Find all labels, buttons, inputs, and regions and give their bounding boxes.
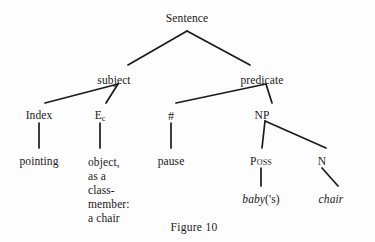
node-np-label: NP (255, 109, 270, 121)
gloss-line: member: (88, 197, 130, 211)
node-pause-label: pause (158, 155, 185, 167)
figure-container: Sentence subject predicate Index Ec # NP… (0, 0, 375, 242)
node-sentence-label: Sentence (166, 12, 208, 24)
np-to-poss (262, 121, 265, 148)
node-ec: Ec (95, 109, 106, 124)
n-to-chair (322, 168, 338, 186)
node-predicate-label: predicate (240, 74, 283, 86)
node-object-gloss: object,as aclass-member:a chair (88, 155, 130, 225)
gloss-line: object, (88, 155, 130, 169)
gloss-line: a chair (88, 211, 130, 225)
node-index: Index (26, 109, 53, 123)
node-n: N (318, 155, 326, 169)
figure-caption: Figure 10 (170, 221, 217, 233)
node-pause: pause (158, 155, 185, 169)
node-hash: # (168, 109, 174, 123)
node-baby: baby('s) (242, 193, 279, 207)
node-poss: Poss (250, 155, 272, 169)
node-pointing-label: pointing (19, 155, 58, 167)
node-baby-suffix: ('s) (265, 193, 280, 205)
node-np: NP (255, 109, 270, 123)
node-poss-label: Poss (250, 155, 272, 167)
node-ec-subscript: c (102, 114, 106, 123)
node-hash-label: # (168, 109, 174, 123)
node-predicate: predicate (240, 74, 283, 88)
node-baby-italic: baby (242, 193, 265, 205)
node-index-label: Index (26, 109, 53, 121)
np-to-n (265, 121, 326, 148)
node-sentence: Sentence (166, 12, 208, 26)
node-chair: chair (319, 193, 344, 207)
figure-caption-label: Figure 10 (170, 221, 217, 233)
node-n-label: N (318, 155, 326, 167)
node-pointing: pointing (19, 155, 58, 169)
sentence-to-predicate (187, 31, 250, 65)
gloss-line: as a (88, 169, 130, 183)
node-chair-label: chair (319, 193, 344, 205)
node-subject-label: subject (97, 74, 130, 86)
sentence-to-subject (128, 31, 187, 65)
node-subject: subject (97, 74, 130, 88)
gloss-line: class- (88, 183, 130, 197)
